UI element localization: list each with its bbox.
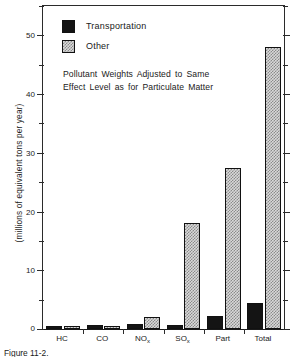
y-axis-minor-tick-right: [283, 6, 288, 7]
bar-sox-transportation: [167, 325, 183, 329]
y-axis-minor-tick-right: [283, 123, 288, 124]
x-axis-label-part: Part: [215, 334, 230, 343]
y-axis-title: (millions of equivalent tons per year): [14, 48, 24, 298]
annotation-line-2: Effect Level as for Particulate Matter: [63, 81, 213, 94]
y-axis-minor-tick-left: [39, 123, 44, 124]
y-axis-tick-label: 50: [26, 31, 35, 40]
y-axis-minor-tick-right: [283, 300, 288, 301]
y-axis-minor-tick-right: [283, 65, 288, 66]
y-axis-major-tick-right: [283, 94, 290, 95]
y-axis-major-tick-right: [283, 35, 290, 36]
y-axis-minor-tick-left: [39, 300, 44, 301]
y-axis-minor-tick-right: [283, 241, 288, 242]
bar-hc-transportation: [46, 326, 62, 329]
y-axis-major-tick-left: [37, 35, 44, 36]
y-axis-major-tick-right: [283, 153, 290, 154]
y-axis-minor-tick-left: [39, 241, 44, 242]
x-axis-tick: [204, 329, 205, 334]
bar-hc-other: [64, 326, 80, 329]
x-axis-label-hc: HC: [56, 334, 68, 343]
figure-container: (millions of equivalent tons per year) 0…: [0, 0, 297, 357]
bar-co-other: [104, 326, 120, 329]
x-axis-label-total: Total: [254, 334, 271, 343]
y-axis-major-tick-left: [37, 153, 44, 154]
annotation-line-1: Pollutant Weights Adjusted to Same: [63, 68, 213, 81]
bar-sox-other: [184, 223, 200, 329]
bar-total-transportation: [247, 303, 263, 329]
bar-total-other: [265, 47, 281, 329]
bar-co-transportation: [87, 325, 103, 329]
y-axis-major-tick-left: [37, 212, 44, 213]
y-axis-tick-label: 40: [26, 90, 35, 99]
x-axis-label-sox: SOx: [175, 334, 190, 343]
bar-part-transportation: [207, 316, 223, 330]
y-axis-tick-label: 20: [26, 207, 35, 216]
legend-label-transportation: Transportation: [86, 21, 147, 31]
y-axis-tick-label: 10: [26, 266, 35, 275]
x-axis-tick: [83, 329, 84, 334]
bar-nox-other: [144, 317, 160, 329]
y-axis-minor-tick-right: [283, 182, 288, 183]
y-axis-major-tick-left: [37, 270, 44, 271]
y-axis-minor-tick-left: [39, 182, 44, 183]
y-axis-tick-label: 30: [26, 148, 35, 157]
y-axis-major-tick-right: [283, 329, 290, 330]
y-axis-major-tick-left: [37, 94, 44, 95]
y-axis-major-tick-right: [283, 270, 290, 271]
y-axis-minor-tick-left: [39, 65, 44, 66]
x-axis-tick: [123, 329, 124, 334]
legend-swatch-transportation-icon: [62, 20, 75, 33]
legend-item-transportation: Transportation: [62, 16, 147, 36]
y-axis-major-tick-left: [37, 329, 44, 330]
legend-swatch-other-icon: [62, 40, 75, 53]
chart-legend: Transportation Other: [62, 16, 147, 56]
legend-label-other: Other: [86, 41, 110, 51]
legend-item-other: Other: [62, 36, 147, 56]
x-axis-label-nox: NOx: [135, 334, 150, 343]
bar-part-other: [225, 168, 241, 330]
bar-nox-transportation: [127, 324, 143, 329]
x-axis-tick: [244, 329, 245, 334]
y-axis-tick-label: 0: [31, 324, 35, 333]
x-axis-tick: [164, 329, 165, 334]
figure-caption: Figure 11-2.: [4, 348, 294, 357]
chart-annotation: Pollutant Weights Adjusted to Same Effec…: [63, 68, 213, 94]
x-axis-label-co: CO: [96, 334, 108, 343]
y-axis-minor-tick-left: [39, 6, 44, 7]
y-axis-major-tick-right: [283, 212, 290, 213]
